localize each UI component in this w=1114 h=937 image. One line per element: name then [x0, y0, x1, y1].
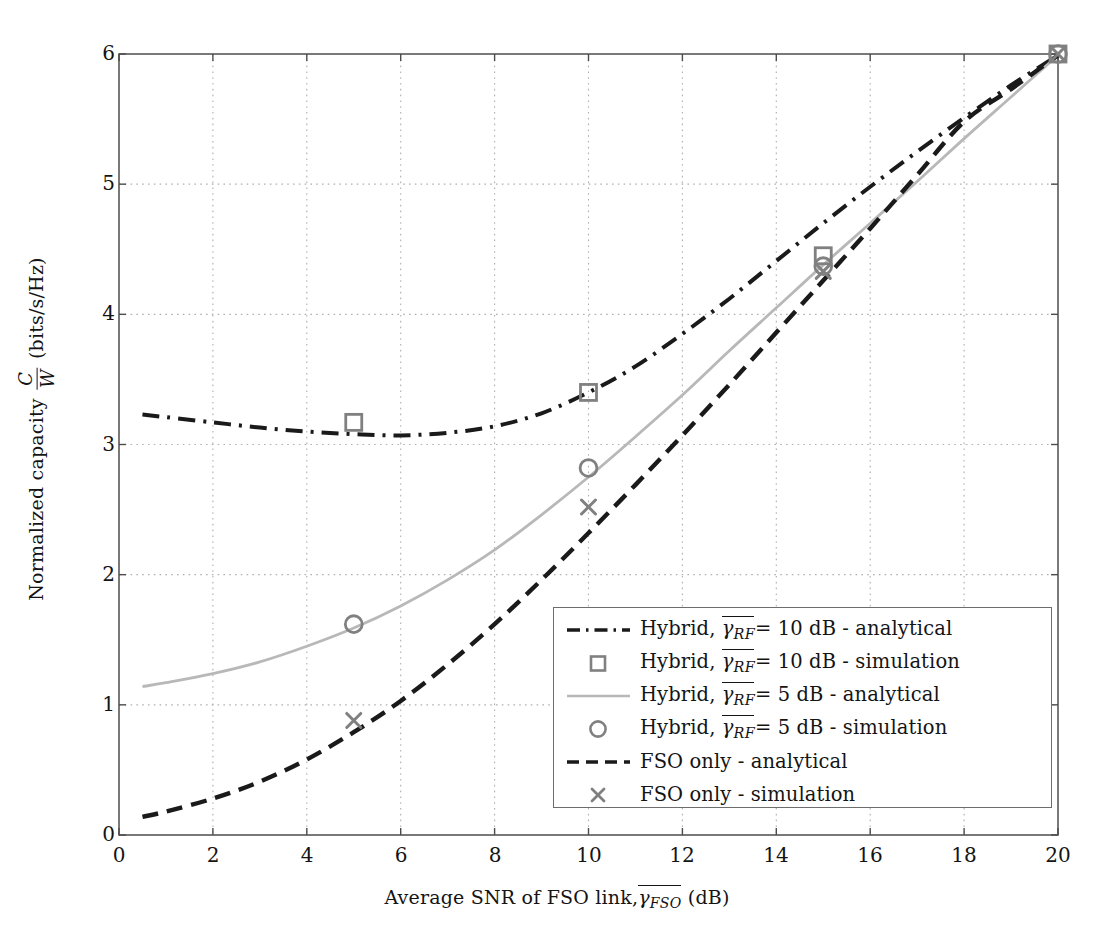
x-tick-label: 10 — [569, 843, 609, 867]
x-tick-label: 14 — [756, 843, 796, 867]
legend-label: Hybrid, γRF= 5 dB - simulation — [640, 716, 947, 741]
legend-label: Hybrid, γRF= 10 dB - simulation — [640, 650, 960, 675]
x-tick-label: 12 — [662, 843, 702, 867]
x-tick-label: 8 — [475, 843, 515, 867]
square-marker-icon — [581, 384, 597, 400]
legend-label: FSO only - simulation — [640, 783, 855, 806]
y-axis-title-prefix: Normalized capacity — [25, 398, 47, 600]
gamma-bar-rf-icon: γRF — [722, 683, 755, 706]
gamma-bar-rf-icon: γRF — [722, 716, 755, 739]
legend-item-fso-only-simulation[interactable]: FSO only - simulation — [554, 778, 1051, 811]
series-markers — [345, 46, 1066, 633]
circle-marker-icon — [554, 712, 640, 745]
circle-marker-icon — [580, 460, 597, 477]
dashed-line-icon — [554, 745, 640, 778]
legend-item-hybrid-10db-simulation[interactable]: Hybrid, γRF= 10 dB - simulation — [554, 646, 1051, 679]
legend-item-fso-only-analytical[interactable]: FSO only - analytical — [554, 745, 1051, 778]
y-tick-label: 2 — [79, 562, 115, 586]
legend-label: FSO only - analytical — [640, 750, 848, 773]
legend-label: Hybrid, γRF= 5 dB - analytical — [640, 683, 940, 708]
legend-label: Hybrid, γRF= 10 dB - analytical — [640, 617, 952, 642]
x-tick-label: 0 — [99, 843, 139, 867]
y-tick-label: 6 — [79, 41, 115, 65]
x-axis-title-prefix: Average SNR of FSO link, — [384, 886, 638, 908]
x-tick-label: 18 — [944, 843, 984, 867]
x-axis-title-unit: (dB) — [688, 886, 730, 908]
square-marker-icon — [346, 414, 362, 430]
legend-item-hybrid-10db-analytical[interactable]: Hybrid, γRF= 10 dB - analytical — [554, 613, 1051, 646]
dash-dot-line-icon — [554, 613, 640, 646]
x-tick-label: 20 — [1038, 843, 1078, 867]
x-tick-label: 16 — [850, 843, 890, 867]
cross-marker-icon — [554, 778, 640, 811]
gamma-bar-rf-icon: γRF — [722, 650, 755, 673]
series-line — [142, 55, 1058, 435]
legend-item-hybrid-5db-simulation[interactable]: Hybrid, γRF= 5 dB - simulation — [554, 712, 1051, 745]
y-axis-title: Normalized capacity CW (bits/s/Hz) — [18, 257, 59, 600]
x-tick-label: 6 — [381, 843, 421, 867]
x-tick-label: 4 — [287, 843, 327, 867]
chart-legend[interactable]: Hybrid, γRF= 10 dB - analytical Hybrid, … — [553, 607, 1052, 808]
gamma-bar-fso-icon: γFSO — [638, 886, 681, 908]
y-tick-label: 4 — [79, 301, 115, 325]
square-marker-icon — [554, 646, 640, 679]
legend-item-hybrid-5db-analytical[interactable]: Hybrid, γRF= 5 dB - analytical — [554, 679, 1051, 712]
cross-marker-icon — [347, 713, 361, 727]
y-tick-label: 1 — [79, 692, 115, 716]
y-tick-label: 0 — [79, 822, 115, 846]
gamma-bar-rf-icon: γRF — [722, 617, 755, 640]
x-tick-label: 2 — [193, 843, 233, 867]
x-axis-title: Average SNR of FSO link,γFSO (dB) — [0, 886, 1114, 911]
y-axis-title-unit: (bits/s/Hz) — [25, 257, 47, 359]
c-over-w-fraction: CW — [17, 367, 58, 390]
figure-container: 0 2 4 6 8 10 12 14 16 18 20 0 1 2 3 4 5 … — [0, 0, 1114, 937]
solid-gray-line-icon — [554, 679, 640, 712]
y-tick-label: 5 — [79, 171, 115, 195]
y-tick-label: 3 — [79, 432, 115, 456]
